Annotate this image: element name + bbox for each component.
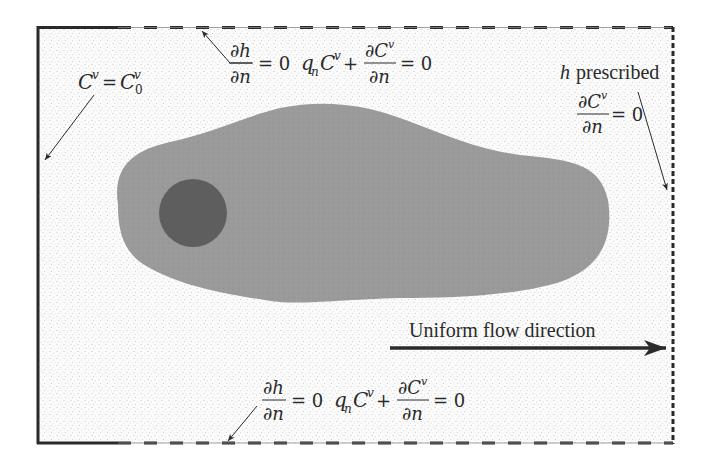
svg-text:+: + (343, 53, 358, 74)
svg-text:v: v (601, 89, 608, 102)
svg-text:n: n (344, 402, 352, 416)
svg-text:= 0: = 0 (291, 390, 323, 411)
svg-text:∂h: ∂h (263, 377, 284, 398)
flow-direction-label: Uniform flow direction (409, 319, 596, 341)
svg-text:∂n: ∂n (263, 403, 284, 424)
boundary-condition-diagram: Uniform flow direction C v = C v 0 ∂h ∂n… (0, 0, 711, 466)
svg-text:v: v (388, 38, 395, 51)
svg-text:v: v (421, 375, 428, 388)
svg-text:= 0: = 0 (400, 53, 432, 74)
source-zone-circle (159, 179, 227, 247)
svg-text:prescribed: prescribed (576, 61, 659, 84)
svg-text:∂n: ∂n (230, 66, 251, 87)
svg-text:∂n: ∂n (369, 66, 390, 87)
svg-text:∂C: ∂C (398, 377, 421, 398)
svg-text:∂C: ∂C (578, 91, 601, 112)
svg-text:v: v (334, 49, 341, 63)
svg-text:v: v (134, 68, 141, 82)
svg-text:= 0: = 0 (433, 390, 465, 411)
svg-text:= 0: = 0 (611, 104, 643, 125)
left-bc-equation: C v = C v 0 (78, 68, 143, 97)
svg-text:v: v (367, 386, 374, 400)
svg-text:= 0: = 0 (258, 53, 290, 74)
svg-text:=: = (102, 72, 117, 93)
svg-text:v: v (92, 68, 99, 82)
svg-text:n: n (311, 65, 319, 79)
svg-text:∂n: ∂n (582, 116, 603, 137)
svg-text:∂h: ∂h (230, 40, 251, 61)
svg-text:∂n: ∂n (402, 403, 423, 424)
svg-text:+: + (376, 390, 391, 411)
svg-text:∂C: ∂C (365, 40, 388, 61)
svg-text:0: 0 (135, 83, 143, 97)
svg-text:h: h (560, 61, 570, 83)
